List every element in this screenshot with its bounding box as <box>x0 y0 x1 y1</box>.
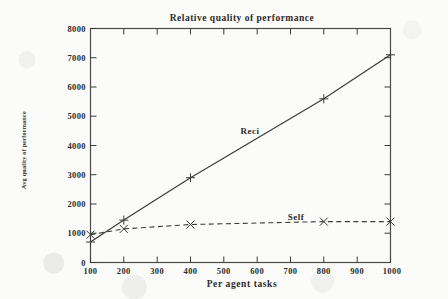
x-tick-label: 600 <box>250 266 264 276</box>
y-tick-label: 7000 <box>67 53 86 63</box>
x-tick-label: 400 <box>184 266 198 276</box>
y-tick-label: 3000 <box>67 170 86 180</box>
x-tick-label: 1000 <box>383 266 402 276</box>
y-tick-label: 1000 <box>67 228 86 238</box>
chart-title: Relative quality of performance <box>170 13 315 23</box>
x-tick-label: 900 <box>350 266 364 276</box>
plot-frame <box>91 29 391 263</box>
y-axis-title: Avg quality of performance <box>20 111 27 189</box>
series-label-self: Self <box>288 212 305 222</box>
y-tick-label: 8000 <box>67 24 86 34</box>
x-tick-label: 800 <box>317 266 331 276</box>
series-label-reci: Reci <box>241 126 260 136</box>
x-tick-labels: 100 200 300 400 500 600 700 800 900 1000 <box>84 266 402 276</box>
x-tick-label: 200 <box>117 266 131 276</box>
relative-quality-of-performance-chart: 0 1000 2000 3000 4000 5000 6000 7000 800… <box>0 0 448 299</box>
y-tick-label: 4000 <box>67 141 86 151</box>
x-tick-label: 700 <box>284 266 298 276</box>
x-axis-title: Per agent tasks <box>207 279 278 289</box>
y-tick-label: 2000 <box>67 199 86 209</box>
series-reci <box>86 50 395 246</box>
x-tick-label: 100 <box>84 266 98 276</box>
series-self <box>87 218 395 239</box>
y-axis-ticks <box>91 29 391 263</box>
chart-page: 0 1000 2000 3000 4000 5000 6000 7000 800… <box>0 0 448 299</box>
x-tick-label: 500 <box>217 266 231 276</box>
y-tick-label: 6000 <box>67 82 86 92</box>
series-reci-line <box>91 55 391 242</box>
y-tick-labels: 0 1000 2000 3000 4000 5000 6000 7000 800… <box>67 24 86 268</box>
plot-border <box>91 29 391 263</box>
y-tick-label: 5000 <box>67 111 86 121</box>
x-tick-label: 300 <box>150 266 164 276</box>
x-axis-ticks <box>91 29 391 263</box>
series-self-line <box>91 222 391 235</box>
